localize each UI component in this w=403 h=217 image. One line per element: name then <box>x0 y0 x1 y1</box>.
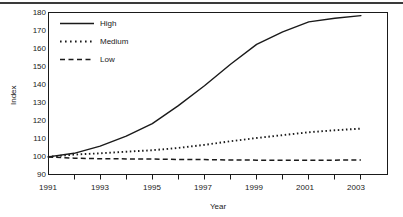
x-axis-ticks <box>75 175 361 180</box>
plot-frame <box>49 13 388 175</box>
series-line-medium <box>48 129 361 157</box>
chart-figure: 180 170 160 150 140 130 120 110 100 90 1… <box>0 0 403 217</box>
series-line-low <box>48 157 361 160</box>
series-line-high <box>48 16 361 157</box>
plot-canvas <box>0 0 403 217</box>
